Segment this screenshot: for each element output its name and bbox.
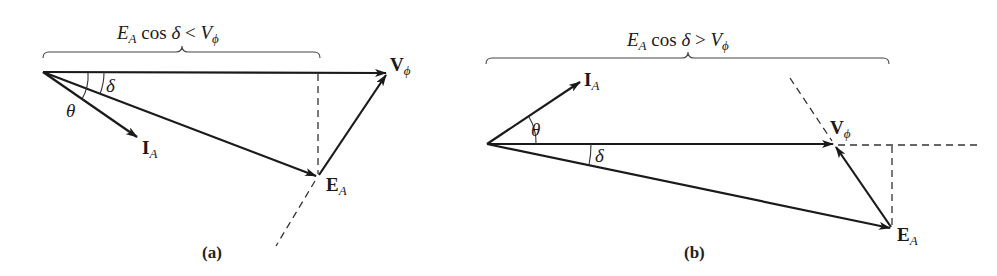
brace-a [43,46,320,58]
jxs-ia-phasor-a [319,75,386,175]
delta-arc-b [589,144,591,165]
delta-label-b: δ [595,145,605,166]
extension-line-a [276,181,315,246]
condition-label-a: EA cos δ < Vϕ [116,22,219,46]
current-label-a: IA [142,137,157,161]
delta-label-a: δ [106,75,116,96]
caption-a: (a) [202,243,222,262]
theta-arc-a [82,73,88,99]
emf-label-a: EA [326,174,347,198]
brace-b [486,52,889,64]
theta-label-b: θ [531,119,540,140]
extension-line-b [790,78,832,141]
emf-phasor-b [487,144,890,228]
phasor-diagram: EA cos δ < Vϕ δ θ IA EA Vϕ (a) EA [0,0,997,276]
emf-label-b: EA [897,224,918,248]
voltage-phasor-a [43,72,386,73]
jxs-ia-phasor-b [836,147,891,227]
condition-label-b: EA cos δ > Vϕ [626,29,729,53]
caption-b: (b) [684,243,705,262]
panel-b: EA cos δ > Vϕ θ δ IA Vϕ EA (b) [486,29,978,262]
emf-phasor-a [43,72,316,176]
current-phasor-a [43,72,137,137]
voltage-label-a: Vϕ [390,54,411,78]
theta-label-a: θ [66,100,75,121]
current-label-b: IA [584,69,599,93]
delta-arc-a [100,72,104,94]
panel-a: EA cos δ < Vϕ δ θ IA EA Vϕ (a) [43,22,411,262]
voltage-label-b: Vϕ [830,117,851,141]
